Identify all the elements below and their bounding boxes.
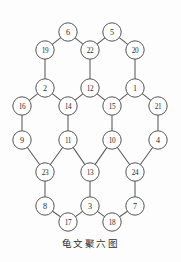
node-19[interactable]: 19 (36, 41, 54, 59)
node-2[interactable]: 2 (36, 79, 54, 97)
node-label-9: 9 (20, 136, 24, 145)
node-label-8: 8 (43, 202, 47, 211)
node-6[interactable]: 6 (59, 23, 77, 41)
edge-12-15 (97, 94, 105, 100)
node-label-17: 17 (65, 218, 72, 227)
node-label-22: 22 (87, 46, 94, 55)
node-label-21: 21 (155, 102, 162, 111)
node-17[interactable]: 17 (59, 213, 77, 231)
node-11[interactable]: 11 (59, 131, 77, 149)
node-label-24: 24 (132, 168, 139, 177)
node-label-3: 3 (88, 202, 92, 211)
node-21[interactable]: 21 (149, 97, 167, 115)
edge-group (22, 38, 158, 217)
edge-8-17 (53, 211, 61, 217)
edge-2-14 (52, 94, 61, 101)
node-1[interactable]: 1 (126, 79, 144, 97)
edge-6-22 (75, 38, 83, 44)
node-18[interactable]: 18 (103, 213, 121, 231)
node-3[interactable]: 3 (81, 197, 99, 215)
edge-2-16 (29, 94, 38, 101)
hexagonal-lattice-figure: 651922202121161415219111042313248371718 … (0, 0, 181, 262)
node-label-5: 5 (110, 28, 114, 37)
node-label-20: 20 (132, 46, 139, 55)
node-15[interactable]: 15 (103, 97, 121, 115)
node-13[interactable]: 13 (81, 163, 99, 181)
node-label-11: 11 (65, 136, 72, 145)
figure-caption: 龟文聚六图 (0, 236, 181, 250)
edge-11-23 (50, 147, 62, 164)
node-label-4: 4 (156, 136, 160, 145)
edge-1-21 (142, 94, 151, 101)
node-group: 651922202121161415219111042313248371718 (13, 23, 167, 231)
node-9[interactable]: 9 (13, 131, 31, 149)
node-4[interactable]: 4 (149, 131, 167, 149)
node-10[interactable]: 10 (103, 131, 121, 149)
node-label-16: 16 (19, 102, 26, 111)
node-label-19: 19 (42, 46, 49, 55)
node-label-1: 1 (133, 84, 137, 93)
edge-10-24 (117, 147, 129, 164)
edge-10-13 (95, 148, 107, 165)
edge-6-19 (52, 38, 61, 45)
edge-11-13 (73, 148, 85, 165)
node-8[interactable]: 8 (36, 197, 54, 215)
edge-12-14 (75, 94, 83, 100)
edge-5-22 (97, 38, 105, 44)
node-label-7: 7 (133, 202, 137, 211)
node-5[interactable]: 5 (103, 23, 121, 41)
node-7[interactable]: 7 (126, 197, 144, 215)
node-12[interactable]: 12 (81, 79, 99, 97)
node-20[interactable]: 20 (126, 41, 144, 59)
node-label-6: 6 (66, 28, 70, 37)
node-label-18: 18 (109, 218, 116, 227)
node-label-10: 10 (109, 136, 116, 145)
node-label-13: 13 (87, 168, 94, 177)
node-22[interactable]: 22 (81, 41, 99, 59)
edge-7-18 (120, 211, 128, 217)
node-16[interactable]: 16 (13, 97, 31, 115)
edge-9-23 (27, 147, 39, 164)
edge-4-24 (140, 147, 152, 164)
edge-3-17 (75, 211, 82, 216)
node-label-15: 15 (109, 102, 116, 111)
node-23[interactable]: 23 (36, 163, 54, 181)
edge-3-18 (97, 211, 104, 216)
lattice-diagram: 651922202121161415219111042313248371718 (0, 0, 181, 262)
node-14[interactable]: 14 (59, 97, 77, 115)
node-label-23: 23 (42, 168, 49, 177)
node-24[interactable]: 24 (126, 163, 144, 181)
edge-5-20 (119, 38, 128, 45)
edge-1-15 (119, 94, 128, 101)
node-label-14: 14 (65, 102, 72, 111)
node-label-12: 12 (87, 84, 94, 93)
node-label-2: 2 (43, 84, 47, 93)
